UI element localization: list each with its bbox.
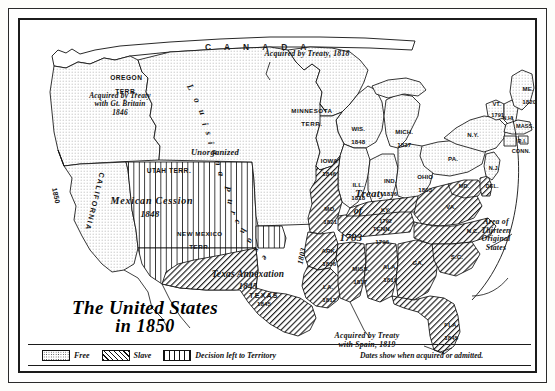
label-kentucky-abbr: KY. — [381, 207, 390, 213]
label-florida: FLA. 1845 — [430, 316, 458, 348]
legend-item-slave[interactable]: Slave — [102, 350, 152, 361]
map-title-line2: in 1850 — [40, 317, 250, 335]
region-georgia — [396, 240, 438, 300]
lp-char: s — [203, 130, 214, 136]
label-arkansas: ARK. 1836 — [306, 242, 338, 274]
annotation-oregon-treaty: Acquired by Treaty with Gt. Britain 1846 — [68, 92, 172, 117]
annotation-texas-annexation: Texas Annexation — [188, 270, 308, 280]
label-alabama: ALA. 1819 — [368, 258, 398, 290]
legend-rule-bottom — [28, 365, 531, 366]
map-legend: Free Slave Decision left to Territory — [42, 350, 288, 361]
label-iowa-year: 1846 — [322, 170, 336, 177]
label-pennsylvania: PA. — [440, 156, 466, 162]
label-rhode-island: R.I. — [510, 139, 534, 145]
legend-rule — [28, 344, 531, 345]
label-minnesota-sub: TERR. — [301, 120, 322, 127]
label-ohio-year: 1803 — [418, 186, 432, 193]
annotation-thirteen-original-states: Area of Thirteen Original States — [460, 218, 532, 253]
legend-label-free: Free — [74, 351, 90, 360]
region-michigan-upper-peninsula — [372, 78, 426, 98]
lp-char: a — [245, 237, 256, 245]
label-missouri: MO. 1821 — [308, 200, 338, 232]
label-wisconsin-year: 1848 — [351, 138, 365, 145]
lp-char: o — [192, 96, 203, 104]
label-maryland: MD. — [452, 184, 476, 190]
label-maine: ME. 1820 — [508, 80, 534, 112]
label-mississippi: MISS. 1817 — [338, 260, 368, 292]
label-new-jersey: N.J. — [482, 166, 506, 172]
lp-char: P — [223, 186, 233, 192]
annotation-spain-1819: Acquired by Treaty with Spain, 1819 — [302, 332, 432, 349]
lp-char: n — [213, 160, 223, 166]
label-kentucky-year: 1792 — [379, 218, 392, 224]
thirteen-colonies-leader-lower — [472, 278, 508, 296]
label-wisconsin-abbr: WIS. — [351, 125, 365, 132]
label-new-mexico-sub: TERR. — [189, 243, 210, 250]
lp-char: u — [225, 199, 236, 205]
label-mississippi-year: 1817 — [353, 278, 367, 285]
label-mississippi-abbr: MISS. — [352, 265, 369, 272]
map-canvas: CANADA OREGON TERR. Acquired by Treaty w… — [20, 20, 535, 371]
lp-char: i — [206, 141, 216, 145]
label-arkansas-year: 1836 — [322, 260, 336, 267]
lp-char: h — [238, 227, 249, 235]
label-iowa: IOWA 1846 — [305, 152, 339, 184]
legend-label-territory: Decision left to Territory — [195, 351, 276, 360]
legend-note: Dates show when acquired or admitted. — [360, 351, 483, 360]
legend-label-slave: Slave — [134, 351, 152, 360]
label-louisiana-year: 1812 — [322, 296, 336, 303]
annotation-unorganized: Unorganized — [175, 148, 255, 157]
legend-item-free[interactable]: Free — [42, 350, 90, 361]
label-georgia: GA. — [404, 260, 432, 266]
label-minnesota-name: MINNESOTA — [291, 107, 332, 114]
legend-swatch-free — [42, 350, 70, 361]
label-michigan: MICH. 1837 — [379, 123, 415, 155]
label-minnesota-territory: MINNESOTA TERR. — [267, 102, 339, 134]
annotation-treaty-1783-line1: Treaty — [340, 188, 400, 199]
label-indiana-abbr: IND. — [384, 177, 397, 184]
label-michigan-year: 1837 — [397, 141, 411, 148]
label-arkansas-abbr: ARK. — [321, 247, 336, 254]
label-connecticut: CONN. — [506, 149, 536, 155]
lp-char: c — [233, 219, 244, 226]
label-new-hampshire: N.H. — [496, 116, 520, 122]
label-louisiana: LA. 1812 — [308, 278, 334, 310]
label-florida-abbr: FLA. — [444, 321, 458, 328]
label-new-mexico-name: NEW MEXICO — [177, 230, 223, 237]
annotation-treaty-1783-line2: of — [338, 206, 378, 216]
map-title-line1: The United States — [40, 298, 250, 317]
label-iowa-abbr: IOWA — [321, 157, 338, 164]
label-missouri-year: 1821 — [323, 218, 337, 225]
label-south-carolina: S.C. — [444, 254, 470, 260]
label-massachusetts: MASS. — [510, 124, 537, 130]
map-figure: CANADA OREGON TERR. Acquired by Treaty w… — [0, 0, 555, 391]
lp-char: L — [185, 82, 196, 92]
map-title: The United States in 1850 — [40, 298, 250, 336]
label-wisconsin: WIS. 1848 — [334, 120, 368, 152]
lp-char: i — [200, 121, 210, 126]
legend-item-territory[interactable]: Decision left to Territory — [163, 350, 276, 361]
label-ohio: OHIO 1803 — [401, 168, 435, 200]
label-maine-year: 1820 — [522, 98, 536, 105]
label-alabama-year: 1819 — [383, 276, 397, 283]
annotation-mexican-cession: Mexican Cession — [82, 196, 222, 206]
lp-char: u — [197, 108, 208, 116]
label-maine-abbr: ME. — [523, 85, 534, 92]
lp-char: s — [252, 246, 262, 254]
label-new-mexico-territory: NEW MEXICO TERR. — [148, 225, 234, 257]
label-oregon-name: OREGON — [110, 74, 142, 81]
label-florida-year: 1845 — [444, 334, 458, 341]
map-inner-frame: CANADA OREGON TERR. Acquired by Treaty w… — [18, 18, 537, 373]
label-new-york: N.Y. — [460, 132, 486, 138]
annotation-treaty-1818: Acquired by Treaty, 1818 — [242, 50, 372, 59]
label-delaware: DEL. — [478, 184, 506, 190]
lp-char: e — [260, 254, 271, 263]
label-vermont-abbr: VT. — [492, 101, 500, 107]
lp-char: a — [216, 172, 226, 177]
label-ohio-abbr: OHIO — [417, 173, 433, 180]
annotation-texas-annexation-year: 1845 — [228, 282, 268, 291]
label-tennessee-year: 1796 — [375, 238, 389, 245]
label-michigan-abbr: MICH. — [395, 128, 413, 135]
label-virginia: VA. — [438, 204, 464, 210]
label-utah-territory: UTAH TERR. — [130, 168, 208, 175]
